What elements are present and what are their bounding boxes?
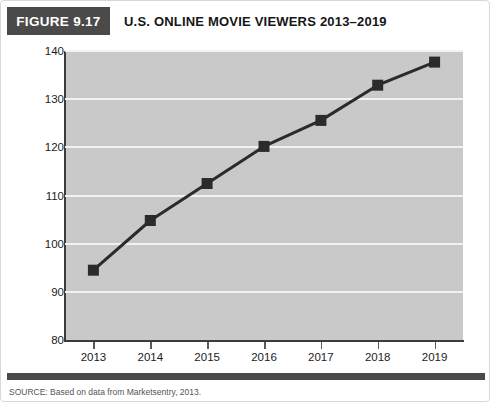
x-axis-tick-label: 2014: [120, 351, 180, 363]
gridline: [65, 98, 463, 100]
x-axis-tick-mark: [321, 342, 323, 349]
figure-card: FIGURE 9.17 U.S. ONLINE MOVIE VIEWERS 20…: [0, 0, 490, 402]
figure-number-tag: FIGURE 9.17: [7, 7, 110, 35]
x-axis-tick-label: 2016: [234, 351, 294, 363]
x-axis-tick-mark: [378, 342, 380, 349]
x-axis-tick-mark: [435, 342, 437, 349]
bottom-rule: [7, 373, 485, 380]
gridline: [65, 291, 463, 293]
x-axis-tick-label: 2013: [63, 351, 123, 363]
x-axis-tick-mark: [150, 342, 152, 349]
x-axis-tick-label: 2018: [348, 351, 408, 363]
y-axis-tick-label: 130: [16, 93, 64, 105]
x-axis-tick-mark: [207, 342, 209, 349]
figure-title: U.S. ONLINE MOVIE VIEWERS 2013–2019: [110, 7, 485, 35]
y-axis-tick-label: 80: [16, 334, 64, 346]
figure-header: FIGURE 9.17 U.S. ONLINE MOVIE VIEWERS 20…: [7, 7, 485, 35]
y-axis-tick-label: 110: [16, 190, 64, 202]
chart-area: 8090100110120130140 20132014201520162017…: [7, 39, 485, 369]
source-note: SOURCE: Based on data from Marketsentry,…: [9, 387, 479, 397]
y-axis-tick-label: 100: [16, 238, 64, 250]
x-axis-tick-mark: [93, 342, 95, 349]
gridline: [65, 195, 463, 197]
gridline: [65, 243, 463, 245]
gridline: [65, 50, 463, 52]
x-axis-tick-label: 2019: [405, 351, 465, 363]
gridline: [65, 146, 463, 148]
y-axis-tick-label: 140: [16, 45, 64, 57]
y-axis-tick-label: 90: [16, 286, 64, 298]
y-axis-tick-label: 120: [16, 141, 64, 153]
x-axis-tick-mark: [264, 342, 266, 349]
x-axis-tick-label: 2015: [177, 351, 237, 363]
x-axis-tick-label: 2017: [291, 351, 351, 363]
y-axis: 8090100110120130140: [7, 39, 64, 341]
